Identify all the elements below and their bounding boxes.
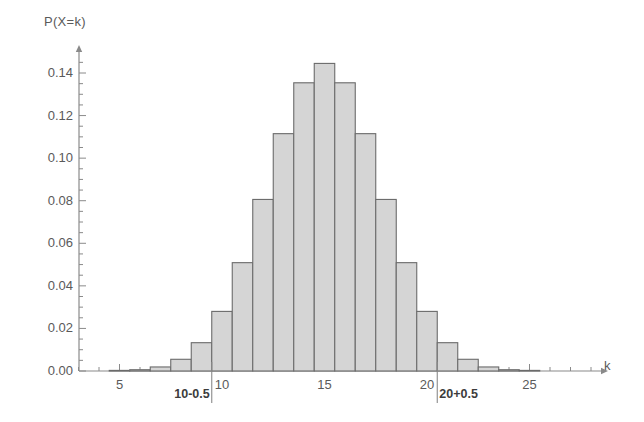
plot-area — [0, 0, 644, 422]
histogram-bar — [396, 263, 417, 371]
histogram-bar — [130, 370, 151, 371]
y-axis-tick-label: 0.12 — [21, 108, 73, 123]
histogram-bar — [355, 134, 376, 371]
lower-continuity-marker-label: 10-0.5 — [120, 387, 210, 401]
histogram-bar — [150, 367, 171, 371]
histogram-bar — [478, 367, 499, 371]
histogram-bar — [232, 263, 253, 371]
y-axis-tick-label: 0.10 — [21, 150, 73, 165]
histogram-bar — [294, 83, 315, 371]
histogram-bar — [458, 359, 479, 371]
binomial-histogram-figure: P(X=k) k 0.000.020.040.060.080.100.120.1… — [0, 0, 644, 422]
histogram-bar — [519, 370, 540, 371]
histogram-bar — [273, 134, 294, 371]
histogram-bar — [376, 199, 397, 371]
histogram-bar — [437, 343, 458, 371]
y-axis-tick-label: 0.04 — [21, 278, 73, 293]
y-axis-tick-label: 0.00 — [21, 363, 73, 378]
y-axis-tick-label: 0.02 — [21, 320, 73, 335]
x-axis-arrow — [601, 368, 608, 374]
y-axis-tick-label: 0.14 — [21, 65, 73, 80]
histogram-bar — [191, 343, 212, 371]
y-axis-tick-label: 0.06 — [21, 235, 73, 250]
histogram-bar — [212, 311, 233, 371]
histogram-bar — [417, 311, 438, 371]
histogram-bar — [171, 359, 192, 371]
histogram-bar — [109, 370, 130, 371]
upper-continuity-marker-label: 20+0.5 — [439, 387, 529, 401]
histogram-bar — [253, 199, 274, 371]
y-axis-arrow — [76, 45, 82, 52]
histogram-bar — [499, 370, 520, 371]
histogram-bar — [314, 63, 335, 371]
histogram-bar — [335, 83, 356, 371]
y-axis-tick-label: 0.08 — [21, 193, 73, 208]
x-axis-tick-label: 15 — [305, 377, 345, 392]
